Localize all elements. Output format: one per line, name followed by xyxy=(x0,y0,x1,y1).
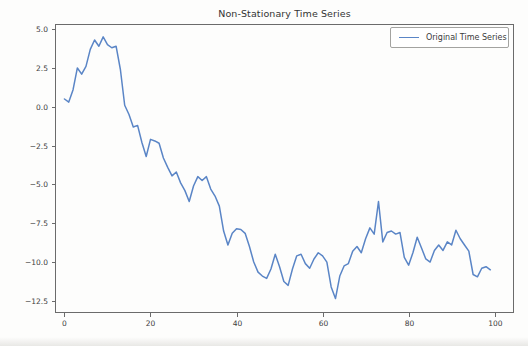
series-line-original-time-series xyxy=(64,37,490,299)
x-tick-label: 40 xyxy=(233,319,243,328)
legend-label: Original Time Series xyxy=(426,33,507,42)
plot-canvas: 0204060801005.02.50.0−2.5−5.0−7.5−10.0−1… xyxy=(0,0,528,346)
figure: Non-Stationary Time Series 0204060801005… xyxy=(0,0,528,346)
y-tick-label: −7.5 xyxy=(30,219,48,228)
x-axis: 020406080100 xyxy=(62,313,503,328)
x-tick-label: 80 xyxy=(405,319,415,328)
x-tick-label: 100 xyxy=(488,319,503,328)
legend: Original Time Series xyxy=(390,27,509,48)
x-tick-label: 60 xyxy=(319,319,329,328)
y-tick-label: −12.5 xyxy=(25,297,48,306)
y-tick-label: 2.5 xyxy=(36,64,48,73)
legend-line-sample-icon xyxy=(399,37,419,38)
y-tick-label: 5.0 xyxy=(36,25,48,34)
x-tick-label: 0 xyxy=(62,319,67,328)
x-tick-label: 20 xyxy=(146,319,156,328)
y-tick-label: −5.0 xyxy=(30,180,48,189)
y-tick-label: −10.0 xyxy=(25,258,48,267)
y-tick-label: 0.0 xyxy=(36,103,48,112)
axes-frame xyxy=(56,25,514,313)
y-tick-label: −2.5 xyxy=(30,142,48,151)
y-axis: 5.02.50.0−2.5−5.0−7.5−10.0−12.5 xyxy=(25,25,55,306)
